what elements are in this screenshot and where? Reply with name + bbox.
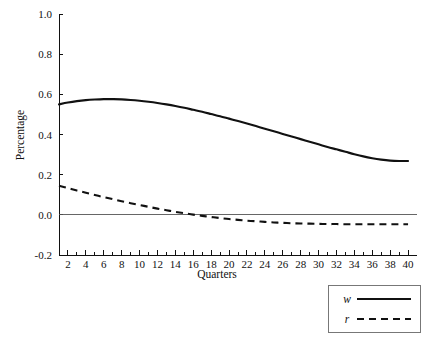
x-tick-label: 24 bbox=[259, 258, 271, 270]
series-line-r bbox=[59, 186, 408, 225]
x-tick-label: 26 bbox=[277, 258, 289, 270]
x-axis-ticks: 246810121416182022242628303234363840 bbox=[59, 250, 414, 270]
x-tick-label: 4 bbox=[83, 258, 89, 270]
x-tick-label: 2 bbox=[65, 258, 71, 270]
x-tick-label: 36 bbox=[367, 258, 379, 270]
chart-legend: w r bbox=[329, 286, 421, 333]
x-tick-label: 6 bbox=[101, 258, 107, 270]
chart-figure: 1.00.80.60.40.20.0-0.2 24681012141618202… bbox=[0, 0, 434, 341]
x-tick-label: 28 bbox=[295, 258, 307, 270]
y-tick-label: -0.2 bbox=[35, 249, 52, 261]
y-tick-label: 0.2 bbox=[38, 169, 52, 181]
y-tick-label: 0.8 bbox=[38, 48, 52, 60]
x-tick-label: 38 bbox=[385, 258, 397, 270]
line-chart: 1.00.80.60.40.20.0-0.2 24681012141618202… bbox=[0, 0, 434, 341]
x-tick-label: 30 bbox=[313, 258, 325, 270]
y-tick-label: 0.0 bbox=[38, 209, 52, 221]
y-axis-title: Percentage bbox=[14, 110, 27, 160]
legend-label-w: w bbox=[343, 293, 351, 305]
x-axis-title: Quarters bbox=[197, 268, 237, 280]
series-line-w bbox=[59, 99, 408, 161]
y-tick-label: 0.4 bbox=[38, 129, 52, 141]
x-tick-label: 22 bbox=[241, 258, 252, 270]
y-tick-label: 0.6 bbox=[38, 88, 52, 100]
legend-label-r: r bbox=[345, 313, 350, 325]
x-tick-label: 14 bbox=[170, 258, 182, 270]
x-tick-label: 32 bbox=[331, 258, 342, 270]
x-tick-label: 8 bbox=[119, 258, 125, 270]
y-tick-label: 1.0 bbox=[38, 8, 52, 20]
x-tick-label: 40 bbox=[403, 258, 415, 270]
x-tick-label: 10 bbox=[134, 258, 146, 270]
x-tick-label: 12 bbox=[152, 258, 163, 270]
x-tick-label: 34 bbox=[349, 258, 361, 270]
